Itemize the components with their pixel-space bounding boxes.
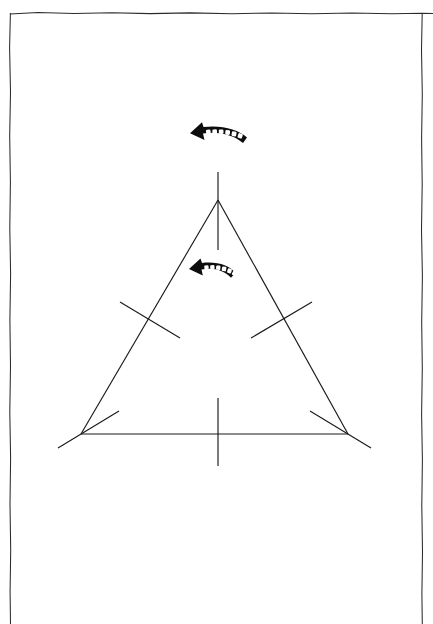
page-canvas [0, 0, 433, 624]
page-border-top-rule [10, 13, 433, 14]
page-border [10, 13, 433, 624]
triangle-shape [81, 200, 348, 434]
construction-lines [58, 172, 371, 466]
bottom-right-angle-bisector-line [310, 411, 371, 448]
page-border-right-rule [422, 13, 423, 624]
upper-curved-arrow-icon [190, 122, 247, 143]
triangle-right-side [218, 200, 348, 434]
page-border-left-rule [10, 13, 11, 624]
right-side-cross-tick-line [251, 302, 312, 338]
upper-curved-arrow-body [190, 122, 247, 143]
triangle-left-side [81, 200, 218, 434]
left-side-cross-tick-line [120, 302, 180, 338]
bottom-left-angle-bisector-line [58, 411, 119, 448]
lower-curved-arrow-icon [189, 259, 237, 278]
figure-canvas [0, 0, 433, 624]
